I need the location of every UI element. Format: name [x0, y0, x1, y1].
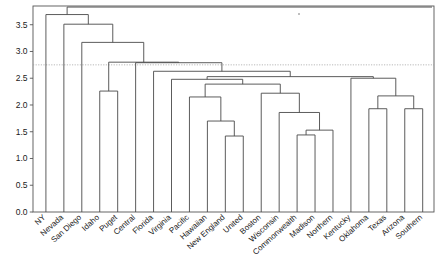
- chart-background: [0, 0, 443, 279]
- y-tick-label: 3.0: [16, 46, 28, 56]
- y-tick-label: 3.5: [16, 20, 28, 30]
- stray-speck-mark: [298, 13, 300, 15]
- y-tick-label: 2.5: [16, 73, 28, 83]
- speck-dot: [298, 13, 300, 15]
- y-tick-label: 0.0: [16, 207, 28, 217]
- y-tick-label: 1.5: [16, 127, 28, 137]
- y-tick-label: 2.0: [16, 100, 28, 110]
- y-tick-label: 1.0: [16, 153, 28, 163]
- y-tick-label: 0.5: [16, 180, 28, 190]
- dendrogram-chart: 0.00.51.01.52.02.53.03.5 NYNevadaSan Die…: [0, 0, 443, 279]
- dendrogram-plot: 0.00.51.01.52.02.53.03.5 NYNevadaSan Die…: [0, 0, 443, 279]
